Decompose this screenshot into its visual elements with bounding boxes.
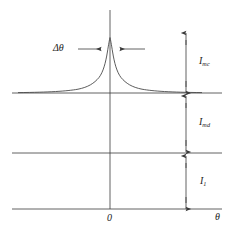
intensity-mc-label-subscript: mc — [202, 60, 209, 67]
delta-theta-label: Δθ — [53, 43, 64, 53]
origin-tick-label: 0 — [107, 213, 112, 223]
x-axis-label: θ — [215, 212, 220, 222]
diffraction-peak-figure: Δθ Imc Imd I1 0 θ — [0, 0, 235, 239]
intensity-mc-label: Imc — [199, 56, 210, 66]
intensity-1-label-subscript: 1 — [203, 180, 206, 187]
intensity-1-label: I1 — [200, 176, 207, 186]
intensity-md-label-subscript: md — [202, 121, 210, 128]
intensity-md-label: Imd — [199, 117, 210, 127]
